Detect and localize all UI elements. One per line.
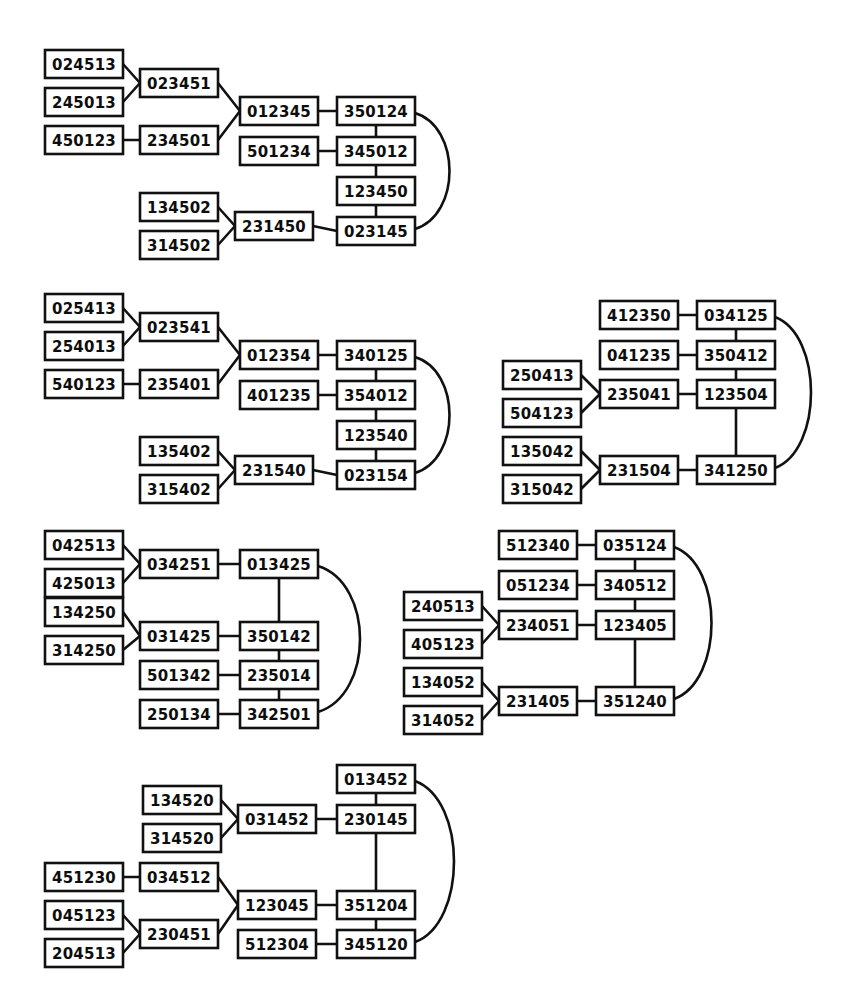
node-401235[interactable]: 401235 [240, 381, 318, 409]
node-231405[interactable]: 231405 [499, 687, 577, 715]
node-234051[interactable]: 234051 [499, 611, 577, 639]
node-label: 340125 [344, 347, 408, 365]
node-label: 023154 [344, 467, 408, 485]
node-012345[interactable]: 012345 [240, 97, 318, 125]
node-340512[interactable]: 340512 [596, 571, 674, 599]
node-314502[interactable]: 314502 [140, 231, 218, 259]
node-250413[interactable]: 250413 [503, 361, 581, 389]
node-350124[interactable]: 350124 [337, 97, 415, 125]
graph-nodes-graph-1: 0245132450134501230234512345010123455012… [45, 50, 415, 259]
node-025413[interactable]: 025413 [45, 294, 123, 322]
node-034251[interactable]: 034251 [140, 550, 218, 578]
node-label: 354012 [344, 387, 408, 405]
node-504123[interactable]: 504123 [503, 399, 581, 427]
node-350142[interactable]: 350142 [240, 622, 318, 650]
node-134502[interactable]: 134502 [140, 193, 218, 221]
node-label: 134052 [411, 674, 475, 692]
node-135402[interactable]: 135402 [140, 437, 218, 465]
node-123045[interactable]: 123045 [238, 891, 316, 919]
node-label: 042513 [52, 537, 116, 555]
node-245013[interactable]: 245013 [45, 88, 123, 116]
node-034125[interactable]: 034125 [697, 301, 775, 329]
node-013425[interactable]: 013425 [240, 550, 318, 578]
node-123450[interactable]: 123450 [337, 177, 415, 205]
node-451230[interactable]: 451230 [45, 863, 123, 891]
graph-nodes-graph-6: 1345203145200314520134522301454512300345… [45, 765, 415, 967]
node-034512[interactable]: 034512 [140, 863, 218, 891]
node-123504[interactable]: 123504 [697, 380, 775, 408]
node-label: 314052 [411, 712, 475, 730]
node-405123[interactable]: 405123 [404, 630, 482, 658]
node-351240[interactable]: 351240 [596, 687, 674, 715]
node-label: 035124 [603, 537, 667, 555]
node-315042[interactable]: 315042 [503, 475, 581, 503]
node-450123[interactable]: 450123 [45, 126, 123, 154]
node-230145[interactable]: 230145 [337, 805, 415, 833]
node-230451[interactable]: 230451 [140, 920, 218, 948]
node-314052[interactable]: 314052 [404, 706, 482, 734]
node-031452[interactable]: 031452 [238, 805, 316, 833]
node-label: 013452 [344, 771, 408, 789]
node-231540[interactable]: 231540 [235, 456, 313, 484]
node-134520[interactable]: 134520 [143, 786, 221, 814]
node-240513[interactable]: 240513 [404, 592, 482, 620]
node-501342[interactable]: 501342 [140, 661, 218, 689]
node-341250[interactable]: 341250 [697, 456, 775, 484]
node-label: 013425 [247, 556, 311, 574]
edge [123, 64, 140, 83]
node-023541[interactable]: 023541 [140, 313, 218, 341]
node-label: 034251 [147, 556, 211, 574]
edge [581, 394, 600, 413]
node-042513[interactable]: 042513 [45, 531, 123, 559]
node-231450[interactable]: 231450 [235, 212, 313, 240]
node-345120[interactable]: 345120 [337, 930, 415, 958]
node-351204[interactable]: 351204 [337, 891, 415, 919]
node-035124[interactable]: 035124 [596, 531, 674, 559]
node-231504[interactable]: 231504 [600, 456, 678, 484]
edge [218, 207, 235, 226]
node-layer: 0245132450134501230234512345010123455012… [45, 50, 775, 967]
node-123540[interactable]: 123540 [337, 421, 415, 449]
node-235041[interactable]: 235041 [600, 380, 678, 408]
node-501234[interactable]: 501234 [240, 137, 318, 165]
node-045123[interactable]: 045123 [45, 901, 123, 929]
node-350412[interactable]: 350412 [697, 341, 775, 369]
node-314250[interactable]: 314250 [45, 636, 123, 664]
edge [775, 317, 811, 468]
node-031425[interactable]: 031425 [140, 622, 218, 650]
node-023145[interactable]: 023145 [337, 217, 415, 245]
node-425013[interactable]: 425013 [45, 569, 123, 597]
node-041235[interactable]: 041235 [600, 341, 678, 369]
node-512304[interactable]: 512304 [238, 930, 316, 958]
node-345012[interactable]: 345012 [337, 137, 415, 165]
node-024513[interactable]: 024513 [45, 50, 123, 78]
node-250134[interactable]: 250134 [140, 700, 218, 728]
node-512340[interactable]: 512340 [499, 531, 577, 559]
node-204513[interactable]: 204513 [45, 939, 123, 967]
node-235014[interactable]: 235014 [240, 661, 318, 689]
node-013452[interactable]: 013452 [337, 765, 415, 793]
node-012354[interactable]: 012354 [240, 341, 318, 369]
node-234501[interactable]: 234501 [140, 126, 218, 154]
node-label: 034125 [704, 307, 768, 325]
node-254013[interactable]: 254013 [45, 332, 123, 360]
node-label: 342501 [247, 706, 311, 724]
node-023154[interactable]: 023154 [337, 461, 415, 489]
node-340125[interactable]: 340125 [337, 341, 415, 369]
node-135042[interactable]: 135042 [503, 437, 581, 465]
node-314520[interactable]: 314520 [143, 824, 221, 852]
node-540123[interactable]: 540123 [45, 370, 123, 398]
node-235401[interactable]: 235401 [140, 370, 218, 398]
node-354012[interactable]: 354012 [337, 381, 415, 409]
node-134052[interactable]: 134052 [404, 668, 482, 696]
edge [218, 327, 240, 355]
edge [313, 226, 337, 231]
node-412350[interactable]: 412350 [600, 301, 678, 329]
node-label: 045123 [52, 907, 116, 925]
node-051234[interactable]: 051234 [499, 571, 577, 599]
node-342501[interactable]: 342501 [240, 700, 318, 728]
node-123405[interactable]: 123405 [596, 611, 674, 639]
node-315402[interactable]: 315402 [140, 475, 218, 503]
node-023451[interactable]: 023451 [140, 69, 218, 97]
node-134250[interactable]: 134250 [45, 598, 123, 626]
